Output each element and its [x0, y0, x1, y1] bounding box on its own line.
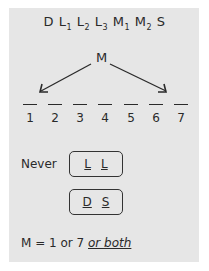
arrows-icon	[0, 0, 209, 271]
position-slot: 5	[124, 104, 138, 125]
block-letter: L	[101, 157, 108, 171]
note-emphasis: or both	[88, 236, 131, 250]
block-letter: D	[83, 195, 92, 209]
position-slot: 4	[98, 104, 112, 125]
note-text: M = 1 or 7	[21, 236, 88, 250]
position-slot: 3	[73, 104, 87, 125]
position-slot: 7	[174, 104, 188, 125]
block-letter: L	[84, 157, 91, 171]
position-slot: 6	[149, 104, 163, 125]
position-slot: 2	[48, 104, 62, 125]
never-block-ll: L L	[69, 151, 123, 177]
never-label: Never	[21, 157, 57, 171]
never-block-ds: D S	[69, 189, 123, 215]
block-letter: S	[102, 195, 110, 209]
position-slot: 1	[23, 104, 37, 125]
rule-note: M = 1 or 7 or both	[21, 236, 131, 250]
